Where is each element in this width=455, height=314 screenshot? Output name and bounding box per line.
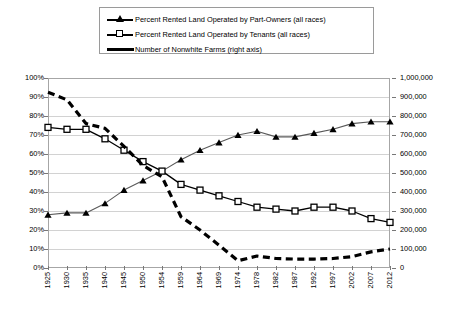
y-axis-right-tick [392, 249, 396, 250]
y-axis-right-tick [392, 135, 396, 136]
y-axis-right-tick [392, 268, 396, 269]
x-axis-tick [48, 266, 49, 270]
y-axis-left-tick-label: 20% [4, 226, 44, 234]
y-axis-left-tick-label: 40% [4, 188, 44, 196]
y-axis-right-tick [392, 116, 396, 117]
y-axis-left-tick-label: 50% [4, 169, 44, 177]
x-axis-tick-label: 1992 [310, 272, 318, 288]
y-axis-right-tick [392, 97, 396, 98]
y-axis-right-tick [392, 230, 396, 231]
square-line-icon [107, 29, 133, 40]
x-axis-tick [162, 266, 163, 270]
x-axis-tick [86, 266, 87, 270]
y-axis-left-tick-label: 70% [4, 131, 44, 139]
y-axis-right-tick-label: 300,000 [400, 207, 455, 215]
y-axis-right-tick-label: 400,000 [400, 188, 455, 196]
x-axis-tick-label: 1987 [291, 272, 299, 288]
legend-item-tenants: Percent Rented Land Operated by Tenants … [107, 27, 367, 41]
gridline [49, 135, 389, 136]
y-axis-right-tick-label: 0 [400, 264, 455, 272]
y-axis-right-tick-label: 1,000,000 [400, 74, 455, 82]
y-axis-left-tick-label: 30% [4, 207, 44, 215]
gridline [49, 249, 389, 250]
x-axis-tick-label: 1978 [253, 272, 261, 288]
y-axis-right-tick-label: 500,000 [400, 169, 455, 177]
y-axis-left-tick [44, 173, 48, 174]
y-axis-left-tick [44, 154, 48, 155]
y-axis-right-tick [392, 211, 396, 212]
x-axis-tick [219, 266, 220, 270]
x-axis-tick [295, 266, 296, 270]
x-axis-tick [276, 266, 277, 270]
y-axis-left-tick-label: 10% [4, 245, 44, 253]
x-axis-tick-label: 1954 [158, 272, 166, 288]
plot-area [48, 78, 390, 268]
gridline [49, 154, 389, 155]
y-axis-right-tick-label: 700,000 [400, 131, 455, 139]
y-axis-right-tick-label: 900,000 [400, 93, 455, 101]
x-axis-tick-label: 1950 [139, 272, 147, 288]
y-axis-right-tick [392, 154, 396, 155]
legend-item-part-owners: Percent Rented Land Operated by Part-Own… [107, 12, 367, 26]
y-axis-left-tick-label: 90% [4, 93, 44, 101]
x-axis-tick [181, 266, 182, 270]
x-axis-tick-label: 1982 [272, 272, 280, 288]
x-axis-tick [238, 266, 239, 270]
x-axis-tick [333, 266, 334, 270]
gridline [49, 211, 389, 212]
y-axis-left-tick [44, 230, 48, 231]
x-axis-tick [371, 266, 372, 270]
gridline [49, 192, 389, 193]
y-axis-left-tick-label: 80% [4, 112, 44, 120]
legend-label-tenants: Percent Rented Land Operated by Tenants … [135, 30, 310, 39]
x-axis-tick-label: 1945 [120, 272, 128, 288]
gridline [49, 230, 389, 231]
y-axis-left-tick [44, 192, 48, 193]
y-axis-left-tick [44, 211, 48, 212]
y-axis-left-tick-label: 100% [4, 74, 44, 82]
x-axis-tick [257, 266, 258, 270]
triangle-line-icon [107, 14, 133, 25]
y-axis-left-tick [44, 249, 48, 250]
y-axis-left-tick-label: 60% [4, 150, 44, 158]
y-axis-left-tick-label: 0% [4, 264, 44, 272]
x-axis-tick-label: 1940 [101, 272, 109, 288]
legend-item-nonwhite-farms: Number of Nonwhite Farms (right axis) [107, 42, 367, 56]
chart-container: Percent Rented Land Operated by Part-Own… [0, 0, 455, 314]
x-axis-tick-label: 2002 [348, 272, 356, 288]
x-axis-tick-label: 1925 [44, 272, 52, 288]
y-axis-left-tick [44, 116, 48, 117]
x-axis-tick [314, 266, 315, 270]
dashed-line-icon [107, 44, 133, 55]
x-axis-tick-label: 2007 [367, 272, 375, 288]
x-axis-tick [67, 266, 68, 270]
x-axis-tick [352, 266, 353, 270]
gridline [49, 173, 389, 174]
x-axis-tick-label: 1959 [177, 272, 185, 288]
y-axis-left-tick [44, 135, 48, 136]
x-axis-tick-label: 2012 [386, 272, 394, 288]
y-axis-right-tick [392, 173, 396, 174]
legend-label-part-owners: Percent Rented Land Operated by Part-Own… [135, 15, 326, 24]
y-axis-right-tick-label: 100,000 [400, 245, 455, 253]
gridline [49, 97, 389, 98]
y-axis-right-tick [392, 192, 396, 193]
legend-label-nonwhite-farms: Number of Nonwhite Farms (right axis) [135, 45, 262, 54]
x-axis-tick [105, 266, 106, 270]
x-axis-tick [143, 266, 144, 270]
x-axis-tick-label: 1930 [63, 272, 71, 288]
x-axis-tick-label: 1964 [196, 272, 204, 288]
y-axis-right-tick [392, 78, 396, 79]
x-axis-tick-label: 1997 [329, 272, 337, 288]
y-axis-left: 0%10%20%30%40%50%60%70%80%90%100% [0, 78, 44, 268]
y-axis-left-tick [44, 97, 48, 98]
x-axis-tick [200, 266, 201, 270]
gridline [49, 116, 389, 117]
x-axis-tick [124, 266, 125, 270]
x-axis-tick [390, 266, 391, 270]
x-axis: 1925193019351940194519501954195919641969… [48, 270, 390, 312]
y-axis-right: 0100,000200,000300,000400,000500,000600,… [394, 78, 452, 268]
x-axis-tick-label: 1935 [82, 272, 90, 288]
x-axis-tick-label: 1974 [234, 272, 242, 288]
y-axis-right-tick-label: 200,000 [400, 226, 455, 234]
